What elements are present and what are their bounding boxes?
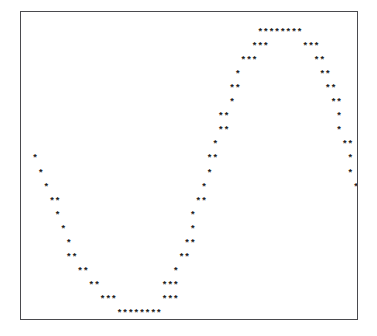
ascii-row: ** ** [21,82,357,96]
ascii-row: * ** [21,96,357,110]
ascii-row: * * * [21,167,357,181]
ascii-row: * * * [21,181,357,195]
ascii-row: ******** [21,307,357,320]
ascii-row: * * [21,223,357,237]
ascii-row: * ** [21,68,357,82]
ascii-row: ** *** [21,279,357,293]
ascii-row: * ** [21,138,357,152]
ascii-row: * * [21,209,357,223]
ascii-row: ** * [21,265,357,279]
ascii-row [21,12,357,26]
ascii-row: ** * [21,110,357,124]
ascii-row: ** ** [21,195,357,209]
ascii-row: *** ** [21,54,357,68]
ascii-row: ** * [21,124,357,138]
ascii-row: *** *** [21,293,357,307]
ascii-row: * ** * [21,152,357,166]
plot-border-frame: ******** *** *** *** ** * ** [20,11,358,320]
ascii-row: * ** [21,237,357,251]
ascii-row: *** *** [21,40,357,54]
ascii-wave-canvas: ******** *** *** *** ** * ** [21,12,357,319]
ascii-row: ** ** [21,251,357,265]
ascii-plot-figure: ******** *** *** *** ** * ** [0,0,377,336]
ascii-row: ******** [21,26,357,40]
